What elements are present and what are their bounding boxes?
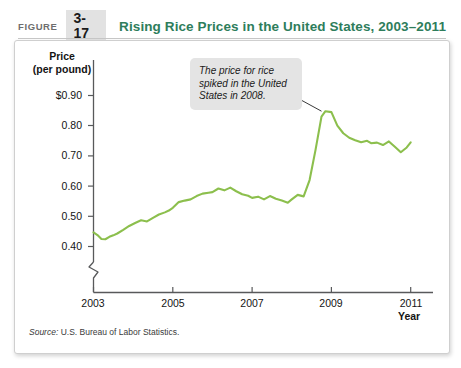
x-tick-label-3: 2009	[311, 297, 351, 309]
figure-header: FIGURE 3-17 Rising Rice Prices in the Un…	[18, 16, 446, 36]
x-tick-label-2: 2007	[232, 297, 272, 309]
y-tick-label-1: 0.80	[36, 119, 82, 131]
x-tick-label-0: 2003	[73, 297, 113, 309]
x-tick-label-1: 2005	[153, 297, 193, 309]
x-axis-title: Year	[398, 310, 420, 322]
y-axis-title-line1: Price	[26, 50, 98, 63]
y-axis-title-line2: (per pound)	[26, 63, 98, 76]
y-tick-label-5: 0.40	[36, 240, 82, 252]
y-tick-label-4: 0.50	[36, 210, 82, 222]
figure-page: FIGURE 3-17 Rising Rice Prices in the Un…	[0, 0, 461, 368]
figure-label: FIGURE	[18, 21, 58, 32]
y-axis-title: Price (per pound)	[26, 50, 98, 76]
source-note: Source: U.S. Bureau of Labor Statistics.	[29, 327, 179, 337]
chart-annotation-callout: The price for rice spiked in the United …	[190, 58, 302, 110]
header-divider	[18, 38, 446, 39]
y-tick-label-2: 0.70	[36, 149, 82, 161]
figure-title: Rising Rice Prices in the United States,…	[119, 19, 446, 34]
source-prefix: Source:	[29, 327, 58, 337]
x-tick-label-4: 2011	[391, 297, 431, 309]
source-text: U.S. Bureau of Labor Statistics.	[61, 327, 180, 337]
y-tick-label-3: 0.60	[36, 180, 82, 192]
y-tick-label-0: $0.90	[36, 89, 82, 101]
